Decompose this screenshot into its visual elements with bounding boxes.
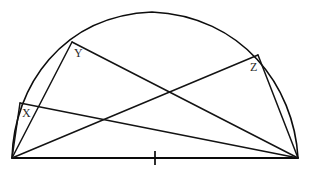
segment-x-b <box>20 103 298 158</box>
point-label-y: Y <box>74 46 83 60</box>
segment-y-b <box>72 42 298 158</box>
geometry-canvas: X Y Z <box>0 0 312 177</box>
point-label-x: X <box>22 106 31 120</box>
segment-z-b <box>258 55 298 158</box>
segment-a-y <box>12 42 72 158</box>
geometry-figure: X Y Z <box>0 0 312 177</box>
point-label-z: Z <box>250 60 257 74</box>
